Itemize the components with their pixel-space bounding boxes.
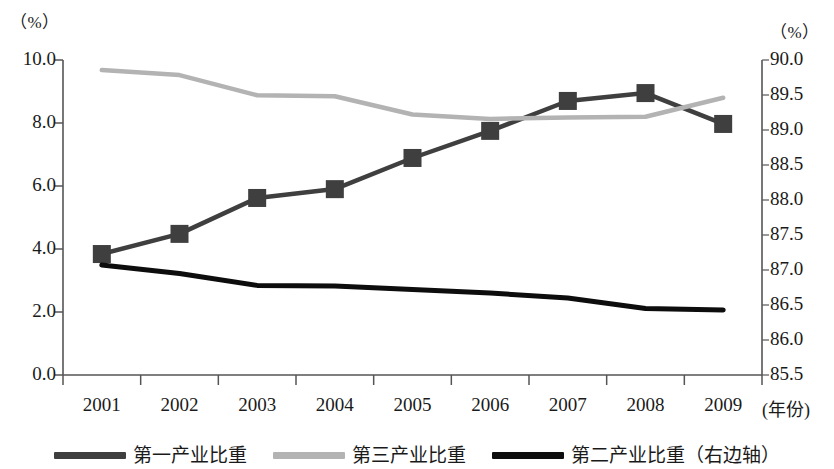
left-axis-tick-label: 0.0 <box>4 363 56 385</box>
x-axis-tick-label: 2001 <box>67 394 137 416</box>
legend-item[interactable]: 第二产业比重（右边轴） <box>492 446 780 465</box>
x-axis-tick-label: 2004 <box>300 394 370 416</box>
left-axis-tick-label: 2.0 <box>4 300 56 322</box>
right-axis-tick-label: 85.5 <box>770 363 830 385</box>
x-axis-tick-label: 2008 <box>611 394 681 416</box>
right-axis-ticks <box>762 60 769 375</box>
x-axis-tick-label: 2009 <box>688 394 758 416</box>
series-marker <box>93 245 111 263</box>
legend-label: 第二产业比重（右边轴） <box>571 446 780 465</box>
legend-color-swatch <box>54 452 126 459</box>
right-axis-tick-label: 86.5 <box>770 293 830 315</box>
legend-item[interactable]: 第三产业比重 <box>273 446 466 465</box>
left-axis-tick-label: 6.0 <box>4 174 56 196</box>
right-axis-tick-label: 90.0 <box>770 48 830 70</box>
right-axis-tick-label: 89.5 <box>770 83 830 105</box>
chart-container: （%） （%） 0.02.04.06.08.010.0 85.586.086.5… <box>0 0 834 469</box>
x-axis-tick-label: 2005 <box>378 394 448 416</box>
series-marker <box>714 115 732 133</box>
right-axis-tick-label: 88.0 <box>770 188 830 210</box>
axis-lines <box>63 60 762 375</box>
legend-label: 第一产业比重 <box>133 446 247 465</box>
chart-legend: 第一产业比重第三产业比重第二产业比重（右边轴） <box>0 446 834 465</box>
right-axis-tick-label: 87.5 <box>770 223 830 245</box>
x-axis-tick-label: 2006 <box>455 394 525 416</box>
right-axis-tick-label: 87.0 <box>770 258 830 280</box>
legend-color-swatch <box>492 452 564 459</box>
series-marker <box>171 225 189 243</box>
series-marker <box>248 189 266 207</box>
right-axis-tick-label: 86.0 <box>770 328 830 350</box>
series-line <box>102 265 723 310</box>
series-marker <box>559 92 577 110</box>
right-axis-tick-label: 89.0 <box>770 118 830 140</box>
left-axis-tick-label: 4.0 <box>4 237 56 259</box>
legend-color-swatch <box>273 452 345 459</box>
legend-item[interactable]: 第一产业比重 <box>54 446 247 465</box>
right-axis-tick-label: 88.5 <box>770 153 830 175</box>
x-axis-tick-label: 2007 <box>533 394 603 416</box>
left-axis-ticks <box>55 60 63 375</box>
data-series-layer <box>93 70 732 310</box>
series-marker <box>637 84 655 102</box>
series-marker <box>326 180 344 198</box>
x-axis-ticks <box>63 375 762 385</box>
left-axis-tick-label: 10.0 <box>4 48 56 70</box>
left-axis-tick-label: 8.0 <box>4 111 56 133</box>
x-axis-tick-label: 2003 <box>222 394 292 416</box>
series-marker <box>481 122 499 140</box>
legend-label: 第三产业比重 <box>352 446 466 465</box>
series-marker <box>404 149 422 167</box>
x-axis-title: (年份) <box>762 395 810 421</box>
x-axis-tick-label: 2002 <box>145 394 215 416</box>
